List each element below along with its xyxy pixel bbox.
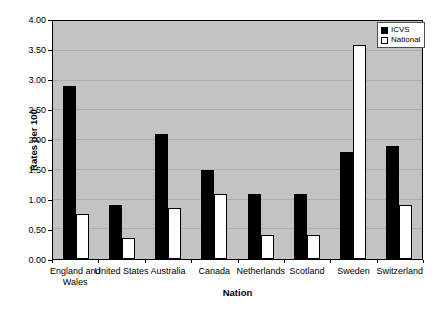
y-tick-label: 1.00 [0, 195, 46, 206]
bar-icvs [340, 152, 353, 259]
x-tick [52, 260, 53, 263]
y-tick-label: 3.50 [0, 45, 46, 56]
legend-swatch-icvs [381, 27, 388, 34]
plot-area [52, 20, 423, 260]
bar-icvs [109, 205, 122, 259]
y-tick-label: 2.50 [0, 105, 46, 116]
y-tick [48, 200, 52, 201]
x-tick [238, 260, 239, 263]
bar-chart: 0.000.501.001.502.002.503.003.504.00 Eng… [0, 0, 444, 312]
legend-label-icvs: ICVS [391, 25, 410, 35]
y-axis-title: Rates per 100 [28, 109, 39, 171]
bar-national [307, 235, 320, 259]
bar-icvs [248, 194, 261, 259]
x-tick [423, 260, 424, 263]
y-tick [48, 50, 52, 51]
bar-group [99, 21, 145, 259]
bar-national [399, 205, 412, 259]
x-tick [98, 260, 99, 263]
y-tick [48, 20, 52, 21]
y-tick-label: 1.50 [0, 165, 46, 176]
x-tick [284, 260, 285, 263]
bar-national [168, 208, 181, 259]
x-category-label: Switzerland [370, 266, 430, 277]
y-tick-label: 0.00 [0, 255, 46, 266]
legend-item-national: National [381, 35, 420, 45]
y-tick-label: 4.00 [0, 15, 46, 26]
bar-group [376, 21, 422, 259]
bar-group [191, 21, 237, 259]
y-tick-label: 3.00 [0, 75, 46, 86]
y-tick [48, 140, 52, 141]
bar-group [284, 21, 330, 259]
bar-group [145, 21, 191, 259]
y-tick [48, 110, 52, 111]
bar-group [238, 21, 284, 259]
y-tick [48, 170, 52, 171]
y-tick-label: 2.00 [0, 135, 46, 146]
y-tick-label: 0.50 [0, 225, 46, 236]
x-tick [330, 260, 331, 263]
y-tick [48, 80, 52, 81]
bar-icvs [294, 194, 307, 259]
legend-item-icvs: ICVS [381, 25, 420, 35]
bar-national [261, 235, 274, 259]
x-tick [191, 260, 192, 263]
bar-icvs [201, 170, 214, 259]
x-tick [377, 260, 378, 263]
bar-icvs [386, 146, 399, 259]
y-tick [48, 230, 52, 231]
bar-national [214, 194, 227, 259]
bar-national [76, 214, 89, 259]
bar-groups [53, 21, 422, 259]
legend: ICVS National [377, 22, 425, 48]
legend-label-national: National [391, 35, 420, 45]
bar-icvs [63, 86, 76, 259]
bar-icvs [155, 134, 168, 259]
legend-swatch-national [381, 37, 388, 44]
bar-national [122, 238, 135, 259]
x-tick [145, 260, 146, 263]
bar-national [353, 45, 366, 259]
bar-group [53, 21, 99, 259]
x-axis-title: Nation [52, 287, 423, 298]
bar-group [330, 21, 376, 259]
